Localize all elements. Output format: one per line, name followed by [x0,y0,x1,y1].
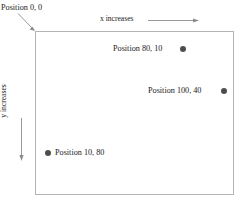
y-axis-label: y increases [0,84,9,118]
point-label-100-40: Position 100, 40 [148,86,201,96]
x-increases-arrow [148,18,199,22]
point-dot-10-80 [45,150,51,156]
origin-label: Position 0, 0 [1,3,42,13]
coordinate-system-diagram: Position 0, 0 x increases y increases Po… [0,0,239,204]
y-increases-arrow [19,118,23,161]
point-label-10-80: Position 10, 80 [55,148,104,158]
point-label-80-10: Position 80, 10 [113,44,162,54]
coordinate-plane-box [35,31,234,195]
point-dot-100-40 [221,88,227,94]
origin-pointer-arrow [18,14,35,32]
point-dot-80-10 [180,46,186,52]
x-axis-label: x increases [100,14,134,24]
